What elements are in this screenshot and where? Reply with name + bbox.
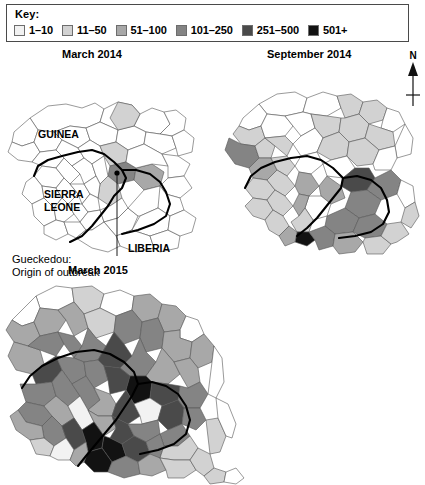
key-label-1-10: 1–10: [29, 24, 53, 36]
key-swatch-101-250: [176, 25, 187, 36]
key-label-101-250: 101–250: [191, 24, 233, 36]
key-title: Key:: [15, 8, 39, 20]
map-label-sierra: SIERRA: [44, 188, 84, 200]
map-panel-march-2014: March 2014: [0, 46, 215, 256]
key-swatch-251-500: [242, 25, 253, 36]
key-swatch-11-50: [62, 25, 73, 36]
key-swatch-501-plus: [308, 25, 319, 36]
key-item-101-250: 101–250: [176, 24, 233, 36]
compass-rose: N: [401, 50, 425, 106]
key-items: 1–10 11–50 51–100 101–250 251–500 501+: [14, 24, 404, 36]
map-march-2014: GUINEA SIERRA LEONE LIBERIA: [0, 46, 215, 256]
key-label-501-plus: 501+: [323, 24, 347, 36]
key-item-1-10: 1–10: [14, 24, 53, 36]
key-item-51-100: 51–100: [116, 24, 167, 36]
key-label-11-50: 11–50: [77, 24, 106, 36]
key-swatch-1-10: [14, 25, 25, 36]
map-march-2015: [0, 258, 280, 485]
compass-needle-icon: [401, 62, 425, 106]
key-swatch-51-100: [116, 25, 127, 36]
key-item-501-plus: 501+: [308, 24, 347, 36]
map-label-leone: LEONE: [44, 201, 80, 213]
map-label-liberia: LIBERIA: [128, 242, 170, 254]
key-item-11-50: 11–50: [62, 24, 106, 36]
map-panel-september-2014: September 2014: [215, 46, 425, 256]
key-label-251-500: 251–500: [257, 24, 299, 36]
key-legend-box: Key: 1–10 11–50 51–100 101–250 251–500 5…: [6, 4, 409, 42]
map-label-guinea: GUINEA: [38, 128, 79, 140]
map-september-2014: [215, 46, 425, 256]
key-item-251-500: 251–500: [242, 24, 299, 36]
key-label-51-100: 51–100: [131, 24, 167, 36]
compass-north-label: N: [401, 50, 425, 61]
map-panel-march-2015: March 2015: [0, 258, 280, 485]
